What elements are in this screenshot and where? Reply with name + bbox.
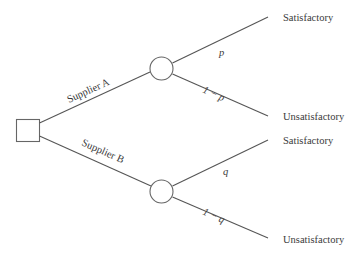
decision-node-square <box>17 120 40 142</box>
outcome-a-unsatisfactory: Unsatisfactory <box>283 111 345 122</box>
outcome-b-unsatisfactory: Unsatisfactory <box>283 234 345 245</box>
decision-tree-diagram: Supplier A Supplier B p 1 − p q 1 − q Sa… <box>0 0 360 259</box>
chance-node-supplier-b <box>150 180 173 203</box>
label-supplier-b: Supplier B <box>80 137 126 165</box>
edge-supplier-a <box>40 72 151 123</box>
prob-b-unsatisfactory: 1 − q <box>201 206 226 225</box>
edge-b-satisfactory <box>173 140 269 186</box>
chance-node-supplier-a <box>150 57 173 80</box>
prob-a-unsatisfactory: 1 − p <box>201 84 226 103</box>
outcome-a-satisfactory: Satisfactory <box>283 12 334 23</box>
prob-b-satisfactory: q <box>223 166 228 177</box>
prob-a-satisfactory: p <box>218 47 224 58</box>
outcome-b-satisfactory: Satisfactory <box>283 135 334 146</box>
